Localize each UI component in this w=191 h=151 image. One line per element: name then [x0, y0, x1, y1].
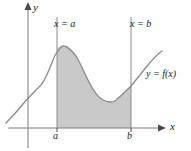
x-axis-label: x [170, 121, 175, 132]
shaded-area-under-curve [57, 46, 131, 128]
tick-label-a: a [53, 131, 58, 141]
y-axis-arrow-icon [25, 2, 32, 10]
tick-label-b: b [127, 131, 132, 141]
label-function-y-equals-f-of-x: y = f(x) [146, 69, 176, 79]
y-axis-label: y [33, 2, 38, 13]
label-x-equals-b: x = b [130, 19, 151, 29]
x-axis-arrow-icon [158, 125, 166, 132]
label-x-equals-a: x = a [54, 19, 75, 29]
area-under-curve-figure: y x x = a x = b y = f(x) a b [0, 0, 191, 151]
